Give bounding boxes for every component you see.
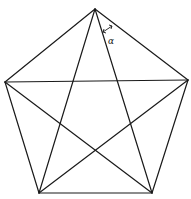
pentagon-diagram: α (0, 0, 191, 199)
angle-arrow-icon (103, 25, 112, 33)
angle-label: α (108, 36, 114, 46)
